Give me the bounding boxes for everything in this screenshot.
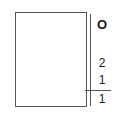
label-top-o: O: [96, 19, 108, 31]
label-middle-2: 2: [96, 57, 108, 69]
vertical-divider-line: [90, 14, 91, 106]
label-lower-1: 1: [96, 74, 108, 86]
label-bottom-1: 1: [96, 93, 108, 105]
horizontal-divider-line: [85, 90, 111, 91]
rectangle-box: [15, 12, 87, 107]
